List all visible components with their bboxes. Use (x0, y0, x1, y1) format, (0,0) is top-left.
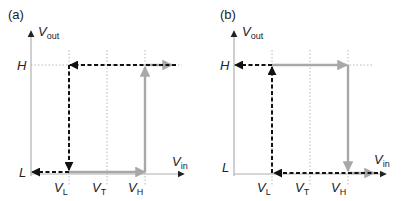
panel-a-y-axis-label: Vout (38, 24, 60, 41)
panel-a-vl-label: VL (54, 180, 68, 197)
panel-a-rising-path (69, 65, 172, 172)
panel-a-high-label: H (17, 58, 27, 73)
hysteresis-diagram: (a) Vout Vin H L VL VT VH (0, 0, 402, 201)
panel-b-label: (b) (220, 7, 236, 22)
panel-a-gridlines (31, 50, 182, 186)
panel-a-label: (a) (8, 7, 24, 22)
panel-a-falling-path (32, 65, 176, 172)
panel-b-vl-label: VL (257, 180, 271, 197)
panel-b-high-label: H (220, 58, 230, 73)
panel-a-low-label: L (19, 165, 26, 180)
panel-a-vt-label: VT (92, 180, 107, 197)
panel-b-falling-path (235, 65, 378, 173)
panel-a-x-axis-label: Vin (172, 154, 188, 171)
panel-b-vh-label: VH (331, 180, 346, 197)
panel-a-vh-label: VH (128, 180, 143, 197)
panel-b: (b) Vout Vin H L VL VT VH (220, 7, 390, 197)
panel-b-x-axis-label: Vin (374, 152, 390, 169)
panel-a: (a) Vout Vin H L VL VT VH (8, 7, 188, 197)
panel-b-low-label: L (222, 160, 229, 175)
panel-b-gridlines (234, 50, 372, 186)
panel-b-vt-label: VT (295, 180, 310, 197)
panel-b-y-axis-label: Vout (242, 24, 264, 41)
panel-b-rising-path (272, 65, 374, 173)
